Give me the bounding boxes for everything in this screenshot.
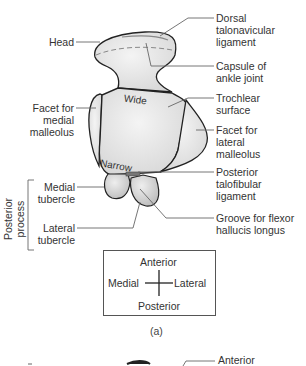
lateral-tubercle-label-2: tubercle [34,234,75,246]
orientation-medial: Medial [108,277,139,289]
capsule-label-2: ankle joint [216,72,263,84]
talus-head [95,32,176,92]
facet-medial-label-2: medial [10,114,74,126]
figure-caption: (a) [150,325,163,337]
trochlear-label-2: surface [216,104,250,116]
orientation-anterior: Anterior [140,256,177,268]
lateral-tubercle-label-1: Lateral [34,222,75,234]
orientation-posterior: Posterior [138,300,180,312]
head-label: Head [40,36,74,48]
facet-lateral-label-3: malleolus [216,148,260,160]
posterior-process-label-1: Posterior [2,184,14,254]
posterior-process-label-2: process [14,184,26,254]
dorsal-label-1: Dorsal [216,12,246,24]
dorsal-label-2: talonavicular [216,24,275,36]
medial-tubercle-label-1: Medial [34,181,75,193]
facet-lateral-label-1: Facet for [216,124,257,136]
next-panel-partial [28,361,215,366]
capsule-label-1: Capsule of [216,60,266,72]
facet-medial-label-3: malleolus [10,126,74,138]
posterior-process-label: Posterior process [2,184,26,254]
facet-lateral-label-2: lateral [216,136,245,148]
groove-label-2: hallucis longus [216,224,285,236]
medial-tubercle-label-2: tubercle [34,193,75,205]
ptfl-label-1: Posterior [216,166,258,178]
orientation-lateral: Lateral [174,277,206,289]
ptfl-label-2: talofibular [216,178,262,190]
trochlear-label-1: Trochlear [216,92,260,104]
ptfl-label-3: ligament [216,190,256,202]
dorsal-label-3: ligament [216,36,256,48]
facet-medial-label-1: Facet for [10,102,74,114]
groove-label-1: Groove for flexor [216,212,294,224]
talus-diagram: Wide Narrow Head Facet for medial malleo… [0,0,306,366]
next-panel-anterior-label: Anterior [218,354,255,366]
